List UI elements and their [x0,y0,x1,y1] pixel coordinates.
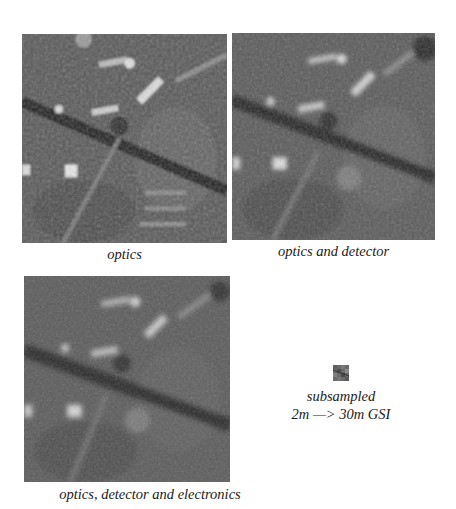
caption-optics-detector-electronics: optics, detector and electronics [0,486,300,503]
aerial-image-subsampled-graphic [333,365,349,381]
aerial-image-optics-detector [232,33,435,240]
caption-subsampled: subsampled 2m —> 30m GSI [256,387,426,423]
aerial-image-optics-graphic [22,34,227,243]
caption-optics-detector: optics and detector [232,243,435,260]
aerial-image-optics-detector-graphic [232,33,435,240]
caption-optics: optics [22,246,227,263]
caption-subsampled-line2: 2m —> 30m GSI [256,405,426,423]
aerial-image-optics-detector-electronics [24,276,230,482]
aerial-image-optics-detector-electronics-graphic [24,276,230,482]
aerial-image-subsampled [333,365,349,381]
caption-subsampled-line1: subsampled [256,387,426,405]
aerial-image-optics [22,34,227,243]
